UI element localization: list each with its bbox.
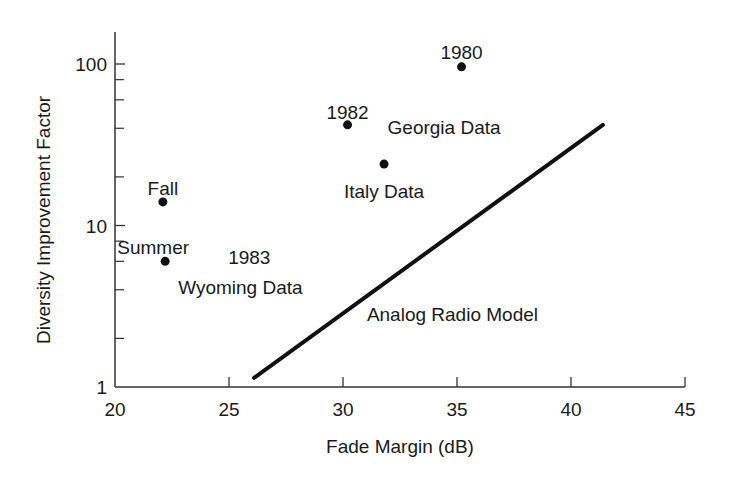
x-tick-label: 20 bbox=[104, 399, 125, 420]
annotation-label: Summer bbox=[117, 237, 189, 258]
x-tick-label: 45 bbox=[674, 399, 695, 420]
x-tick-label: 30 bbox=[332, 399, 353, 420]
x-tick-label: 35 bbox=[446, 399, 467, 420]
x-tick-label: 40 bbox=[560, 399, 581, 420]
annotation-label: Wyoming Data bbox=[178, 277, 303, 298]
annotation-label: 1980 bbox=[440, 42, 482, 63]
y-axis-title: Diversity Improvement Factor bbox=[33, 95, 54, 344]
annotation-label: Analog Radio Model bbox=[367, 304, 538, 325]
x-tick-label: 25 bbox=[218, 399, 239, 420]
y-tick-label: 100 bbox=[75, 54, 107, 75]
annotation-label: 1982 bbox=[326, 102, 368, 123]
scatter-plot: 202530354045110100 19801982Georgia DataI… bbox=[0, 0, 731, 483]
y-tick-label: 1 bbox=[96, 377, 107, 398]
analog-radio-model-line bbox=[254, 125, 603, 378]
y-tick-label: 10 bbox=[86, 216, 107, 237]
data-point bbox=[380, 160, 389, 169]
annotation-label: Fall bbox=[148, 178, 179, 199]
annotation-label: Italy Data bbox=[344, 181, 425, 202]
annotation-label: Georgia Data bbox=[388, 117, 501, 138]
x-axis-title: Fade Margin (dB) bbox=[326, 436, 474, 457]
axes bbox=[115, 32, 685, 387]
data-point bbox=[457, 62, 466, 71]
data-series bbox=[158, 62, 603, 377]
chart-container: 202530354045110100 19801982Georgia DataI… bbox=[0, 0, 731, 483]
annotations: 19801982Georgia DataItaly DataFallSummer… bbox=[117, 42, 538, 325]
annotation-label: 1983 bbox=[228, 247, 270, 268]
